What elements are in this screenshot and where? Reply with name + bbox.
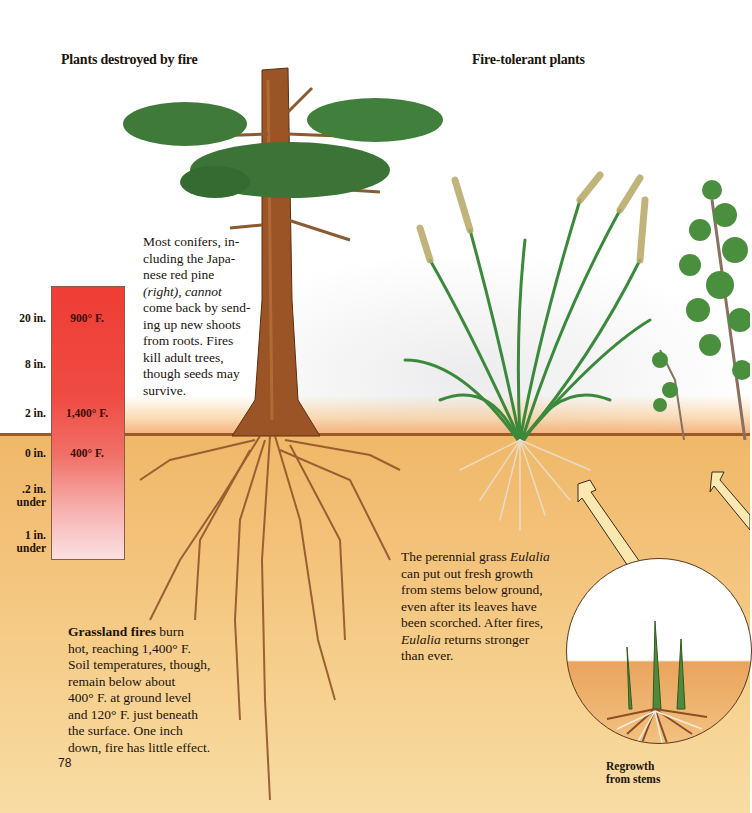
caption-line: Most conifers, in- [143, 234, 283, 251]
caption-line: cluding the Japa- [143, 251, 283, 268]
eulalia-grass-illustration [405, 175, 650, 530]
caption-italic: Eulalia [401, 632, 441, 647]
caption-line: kill adult trees, [143, 350, 283, 367]
caption-italic: Eulalia [510, 549, 550, 564]
temp-1400f: 1,400° F. [51, 407, 123, 419]
regrowth-label-line: from stems [606, 773, 660, 786]
scale-depth-0-2in: .2 in. under [0, 483, 46, 509]
caption-line: hot, reaching 1,400° F. [68, 641, 248, 658]
temp-900f: 900° F. [51, 312, 123, 324]
caption-bold-lead: Grassland fires [68, 624, 156, 639]
temp-400f: 400° F. [51, 447, 123, 459]
regrowth-label: Regrowth from stems [606, 760, 660, 786]
caption-eulalia: The perennial grass Eulalia can put out … [401, 549, 576, 665]
caption-text: burn [156, 624, 184, 639]
heading-fire-tolerant: Fire-tolerant plants [472, 52, 585, 68]
page-number: 78 [58, 756, 71, 770]
scale-height-20in: 20 in. [0, 312, 46, 325]
caption-line: Eulalia returns stronger [401, 632, 576, 649]
caption-line: Soil temperatures, though, [68, 657, 248, 674]
caption-line: and 120° F. just beneath [68, 707, 248, 724]
caption-line: the surface. One inch [68, 723, 248, 740]
scale-depth-sub: under [0, 496, 46, 509]
scale-height-8in: 8 in. [0, 358, 46, 371]
caption-conifers: Most conifers, in- cluding the Japa- nes… [143, 234, 283, 399]
caption-line: than ever. [401, 648, 576, 665]
caption-line: ing up new shoots [143, 317, 283, 334]
caption-text: returns stronger [441, 632, 529, 647]
caption-line: from roots. Fires [143, 333, 283, 350]
caption-text: (right), cannot [143, 284, 222, 299]
caption-line: nese red pine [143, 267, 283, 284]
caption-line: been scorched. After fires, [401, 615, 576, 632]
shrub-illustration [652, 180, 750, 440]
regrowth-label-line: Regrowth [606, 760, 660, 773]
scale-depth-1in: 1 in. under [0, 529, 46, 555]
scale-depth-label: 1 in. [0, 529, 46, 542]
regrowth-inset-circle [566, 558, 752, 744]
scale-depth-label: .2 in. [0, 483, 46, 496]
caption-line: The perennial grass Eulalia [401, 549, 576, 566]
caption-line: though seeds may [143, 366, 283, 383]
temperature-scale-bar [51, 286, 125, 560]
scale-height-2in: 2 in. [0, 407, 46, 420]
caption-line: down, fire has little effect. [68, 740, 248, 757]
caption-text: The perennial grass [401, 549, 510, 564]
caption-grassland-fires: Grassland fires burn hot, reaching 1,400… [68, 624, 248, 756]
scale-height-0in: 0 in. [0, 447, 46, 460]
caption-line: even after its leaves have [401, 599, 576, 616]
caption-line: (right), cannot [143, 284, 283, 301]
caption-line: 400° F. at ground level [68, 690, 248, 707]
regrowth-shoots-illustration [567, 559, 751, 743]
caption-line: remain below about [68, 674, 248, 691]
caption-line: Grassland fires burn [68, 624, 248, 641]
scale-depth-sub: under [0, 542, 46, 555]
caption-line: survive. [143, 383, 283, 400]
heading-plants-destroyed: Plants destroyed by fire [61, 52, 198, 68]
caption-line: can put out fresh growth [401, 566, 576, 583]
caption-line: come back by send- [143, 300, 283, 317]
arrow-to-shrub-roots [710, 472, 750, 530]
caption-line: from stems below ground, [401, 582, 576, 599]
